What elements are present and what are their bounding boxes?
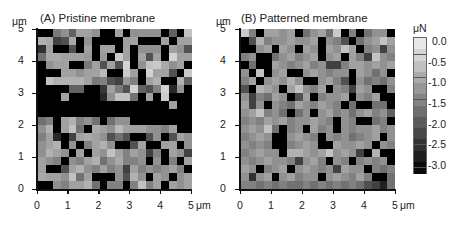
heatmap-cell [272,165,280,173]
heatmap-cell [92,85,100,93]
heatmap-cell [53,181,61,189]
heatmap-cell [100,45,108,53]
heatmap-cell [372,109,380,117]
heatmap-cell [138,101,146,109]
heatmap-cell [146,173,154,181]
heatmap-cell [153,181,161,189]
heatmap-cell [341,173,349,181]
heatmap-cell [153,45,161,53]
heatmap-cell [264,109,272,117]
heatmap-cell [387,61,395,69]
heatmap-cell [38,61,46,69]
heatmap-cell [46,45,54,53]
heatmap-cell [69,165,77,173]
heatmap-cell [138,149,146,157]
heatmap-cell [169,117,177,125]
heatmap-cell [333,165,341,173]
heatmap-cell [38,109,46,117]
heatmap-cell [38,165,46,173]
heatmap-cell [303,117,311,125]
heatmap-cell [100,37,108,45]
heatmap-cell [61,69,69,77]
heatmap-cell [138,165,146,173]
heatmap-cell [333,69,341,77]
heatmap-cell [61,157,69,165]
heatmap-cell [38,173,46,181]
heatmap-cell [264,29,272,37]
heatmap-cell [272,29,280,37]
x-tick-label: 2 [299,199,305,211]
heatmap-cell [161,53,169,61]
heatmap-cell [100,53,108,61]
heatmap-cell [69,85,77,93]
x-tick-label: 5 [188,199,194,211]
heatmap-cell [38,93,46,101]
heatmap-cell [279,181,287,189]
heatmap-cell [387,37,395,45]
heatmap-cell [249,157,257,165]
heatmap-cell [380,109,388,117]
heatmap-cell [310,181,318,189]
heatmap-cell [295,173,303,181]
heatmap-cell [279,37,287,45]
heatmap-cell [123,149,131,157]
x-tick-label: 4 [361,199,367,211]
heatmap-cell [100,109,108,117]
heatmap-cell [364,117,372,125]
heatmap-cell [318,61,326,69]
heatmap-cell [53,61,61,69]
heatmap-cell [333,85,341,93]
heatmap-cell [184,181,192,189]
colorbar-divider [414,54,426,55]
heatmap-cell [287,61,295,69]
heatmap-cell [138,125,146,133]
heatmap-cell [100,133,108,141]
heatmap-cell [349,37,357,45]
heatmap-cell [130,37,138,45]
heatmap-cell [184,77,192,85]
heatmap-cell [84,85,92,93]
heatmap-cell [380,141,388,149]
heatmap-cell [92,133,100,141]
heatmap-cell [53,125,61,133]
heatmap-cell [161,141,169,149]
heatmap-cell [279,69,287,77]
heatmap-cell [46,149,54,157]
heatmap-cell [61,133,69,141]
colorbar-label: -3.0 [428,159,446,171]
heatmap-cell [333,181,341,189]
heatmap-cell [107,117,115,125]
heatmap-cell [76,37,84,45]
heatmap-cell [310,101,318,109]
heatmap-cell [107,133,115,141]
heatmap-cell [387,69,395,77]
heatmap-cell [53,69,61,77]
heatmap-cell [279,141,287,149]
heatmap-cell [287,77,295,85]
heatmap-cell [303,157,311,165]
heatmap-cell [349,149,357,157]
heatmap-cell [184,125,192,133]
heatmap-cell [272,173,280,181]
heatmap-cell [310,85,318,93]
heatmap-cell [100,181,108,189]
heatmap-cell [84,69,92,77]
heatmap-cell [153,61,161,69]
heatmap-cell [364,149,372,157]
heatmap-cell [107,85,115,93]
heatmap-cell [272,157,280,165]
heatmap-cell [107,125,115,133]
heatmap-cell [69,101,77,109]
heatmap-cell [177,85,185,93]
heatmap-cell [356,85,364,93]
heatmap-cell [184,93,192,101]
heatmap-cell [177,101,185,109]
heatmap-cell [372,53,380,61]
heatmap-cell [310,117,318,125]
heatmap-cell [356,141,364,149]
panel-a-y-axis [36,28,38,190]
heatmap-cell [46,141,54,149]
heatmap-cell [310,29,318,37]
heatmap-cell [380,149,388,157]
heatmap-cell [107,101,115,109]
